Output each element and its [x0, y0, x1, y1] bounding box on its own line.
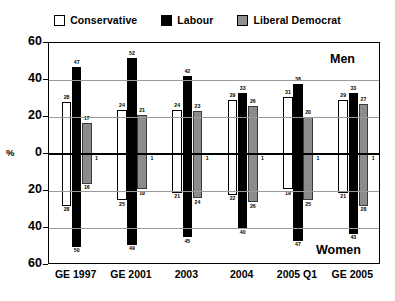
gridline — [49, 191, 379, 192]
y-axis-tick: 40 — [8, 71, 42, 85]
bar-value-label: 24 — [189, 200, 207, 205]
bar-women-cons — [117, 154, 127, 200]
axis-minor-marker: 1 — [260, 156, 266, 161]
panel-caption-women: Women — [316, 243, 361, 257]
bar-women-ld — [137, 154, 147, 189]
axis-minor-marker: 1 — [204, 156, 210, 161]
zero-axis-line — [49, 153, 379, 155]
bar-women-cons — [283, 154, 293, 189]
gridline — [49, 228, 379, 229]
y-axis-tickmark — [43, 42, 48, 44]
bar-value-label: 21 — [133, 108, 151, 113]
bar-women-lab — [127, 154, 137, 245]
bar-men-ld — [248, 106, 258, 154]
bar-men-cons — [338, 100, 348, 154]
axis-minor-marker: 1 — [370, 156, 376, 161]
x-axis-label: GE 1997 — [48, 268, 103, 280]
panel-caption-men: Men — [330, 52, 355, 66]
legend-label: Conservative — [70, 14, 137, 26]
y-axis-label: % — [6, 147, 14, 158]
legend-entry-labour: Labour — [161, 14, 213, 26]
gridline — [49, 80, 379, 81]
bar-value-label: 25 — [299, 202, 317, 207]
bar-men-cons — [228, 100, 238, 154]
bar-women-ld — [82, 154, 92, 184]
bar-value-label: 28 — [355, 207, 373, 212]
legend-label: Liberal Democrat — [253, 14, 340, 26]
chart-container: ConservativeLabourLiberal Democrat 28284… — [0, 0, 395, 301]
bar-value-label: 42 — [179, 69, 197, 74]
bar-men-ld — [303, 117, 313, 154]
bar-value-label: 50 — [68, 248, 86, 253]
legend-entry-conservative: Conservative — [54, 14, 137, 26]
axis-minor-marker: 1 — [315, 156, 321, 161]
bar-men-ld — [82, 123, 92, 154]
x-axis-label: GE 2001 — [103, 268, 158, 280]
bar-value-label: 43 — [345, 235, 363, 240]
bar-value-label: 47 — [289, 242, 307, 247]
y-axis-tick: 20 — [8, 108, 42, 122]
square-outline-icon — [54, 15, 65, 26]
gridline — [49, 117, 379, 118]
bar-value-label: 16 — [78, 185, 96, 190]
chart-legend: ConservativeLabourLiberal Democrat — [0, 10, 395, 30]
bar-value-label: 40 — [234, 230, 252, 235]
x-axis-label: GE 2005 — [325, 268, 380, 280]
bar-men-cons — [62, 102, 72, 154]
bar-value-label: 26 — [244, 204, 262, 209]
bar-value-label: 47 — [68, 60, 86, 65]
bar-women-cons — [338, 154, 348, 193]
bar-women-lab — [349, 154, 359, 234]
axis-minor-marker: 1 — [149, 156, 155, 161]
plot-area: 2828475017161242552492119124214245232412… — [48, 42, 380, 264]
bar-women-ld — [303, 154, 313, 200]
bar-men-lab — [183, 76, 193, 154]
x-axis-labels: GE 1997GE 2001200320042005 Q1GE 2005 — [48, 268, 380, 288]
bar-women-cons — [62, 154, 72, 206]
bar-women-ld — [248, 154, 258, 202]
y-axis-tickmark — [43, 190, 48, 192]
bar-women-lab — [183, 154, 193, 237]
y-axis-tickmark — [43, 153, 48, 155]
bar-women-lab — [72, 154, 82, 247]
bar-value-label: 23 — [189, 104, 207, 109]
square-filled-icon — [161, 15, 172, 26]
bar-men-lab — [127, 58, 137, 154]
x-axis-label: 2003 — [159, 268, 214, 280]
y-axis-tickmark — [43, 79, 48, 81]
bar-men-ld — [359, 104, 369, 154]
square-grey-icon — [237, 15, 248, 26]
bar-men-ld — [137, 115, 147, 154]
bar-men-lab — [293, 84, 303, 154]
bar-men-cons — [283, 97, 293, 154]
x-axis-label: 2004 — [214, 268, 269, 280]
y-axis-tickmark — [43, 264, 48, 266]
x-axis-label: 2005 Q1 — [269, 268, 324, 280]
bar-value-label: 45 — [179, 239, 197, 244]
bar-value-label: 27 — [355, 97, 373, 102]
bar-women-ld — [359, 154, 369, 206]
bar-value-label: 20 — [299, 110, 317, 115]
bar-value-label: 26 — [244, 99, 262, 104]
bar-value-label: 52 — [123, 51, 141, 56]
y-axis-tick: 40 — [8, 219, 42, 233]
y-axis-tick: 60 — [8, 256, 42, 270]
bar-value-label: 49 — [123, 246, 141, 251]
legend-label: Labour — [177, 14, 213, 26]
y-axis-tickmark — [43, 116, 48, 118]
bar-value-label: 33 — [345, 86, 363, 91]
bar-value-label: 33 — [234, 86, 252, 91]
y-axis-tickmark — [43, 227, 48, 229]
bar-women-cons — [172, 154, 182, 193]
y-axis-tick: 60 — [8, 34, 42, 48]
legend-entry-liberal-democrat: Liberal Democrat — [237, 14, 340, 26]
bar-women-cons — [228, 154, 238, 195]
axis-minor-marker: 1 — [94, 156, 100, 161]
y-axis-tick: 20 — [8, 182, 42, 196]
